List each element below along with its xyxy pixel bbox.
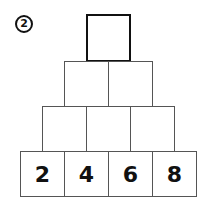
pyramid-cell-r2-1[interactable] xyxy=(64,61,109,107)
pyramid-cell-top[interactable] xyxy=(86,14,131,62)
pyramid-cell-r3-3[interactable] xyxy=(130,106,175,152)
pyramid-cell-r3-1[interactable] xyxy=(42,106,87,152)
pyramid-cell-r3-2[interactable] xyxy=(86,106,131,152)
pyramid-cell-base-4: 8 xyxy=(152,151,197,197)
pyramid-cell-base-1: 2 xyxy=(20,151,65,197)
pyramid-cell-base-2: 4 xyxy=(64,151,109,197)
pyramid-cell-base-3: 6 xyxy=(108,151,153,197)
problem-number-badge: 2 xyxy=(15,15,33,33)
pyramid-cell-r2-2[interactable] xyxy=(108,61,153,107)
